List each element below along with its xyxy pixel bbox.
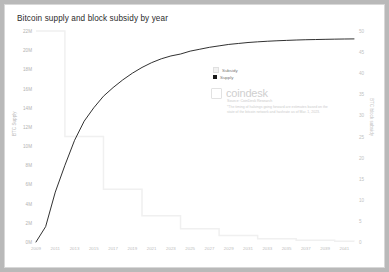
y-axis-left-tick: 10M [23, 144, 32, 149]
source-credit: Source: CoinDesk Research [227, 99, 272, 103]
y-axis-left-tick: 16M [23, 86, 32, 91]
x-axis-tick: 2023 [166, 246, 176, 251]
y-axis-right-tick: 30 [359, 113, 364, 118]
y-axis-left-tick: 2M [26, 220, 32, 225]
x-axis-tick: 2039 [320, 246, 330, 251]
y-axis-right-tick: 20 [359, 155, 364, 160]
page-title: Bitcoin supply and block subsidy by year [17, 14, 168, 23]
y-axis-left-tick: 14M [23, 105, 32, 110]
y-axis-left-tick: 0M [26, 240, 32, 245]
y-axis-left-label: BTC Supply [12, 111, 17, 136]
y-axis-right-label: BTC block subsidy [369, 98, 374, 136]
x-axis-tick: 2033 [262, 246, 272, 251]
y-axis-right-tick: 0 [359, 240, 362, 245]
x-axis-tick: 2025 [185, 246, 195, 251]
legend-swatch-icon [213, 75, 217, 79]
y-axis-left-tick: 4M [26, 201, 32, 206]
x-axis-tick: 2029 [224, 246, 234, 251]
x-axis-tick: 2019 [127, 246, 137, 251]
x-axis-tick: 2011 [51, 246, 60, 251]
y-axis-right-tick: 15 [359, 176, 364, 181]
legend-item-supply: Supply [213, 75, 238, 80]
y-axis-left-tick: 6M [26, 182, 32, 187]
coindesk-square-icon [211, 88, 222, 99]
y-axis-left-tick: 8M [26, 163, 32, 168]
brand-logo: coindesk [211, 87, 268, 99]
x-axis-tick: 2013 [70, 246, 80, 251]
x-axis-tick: 2015 [89, 246, 99, 251]
legend-label: Subsidy [222, 68, 238, 73]
y-axis-left-tick: 22M [23, 29, 32, 34]
y-axis-right-tick: 5 [359, 218, 362, 223]
y-axis-left-tick: 18M [23, 67, 32, 72]
chart-card: Bitcoin supply and block subsidy by year… [4, 4, 385, 268]
y-axis-right-tick: 45 [359, 50, 364, 55]
x-axis-tick: 2037 [301, 246, 311, 251]
y-axis-right-tick: 50 [359, 29, 364, 34]
brand-name: coindesk [226, 87, 268, 99]
x-axis-tick: 2009 [31, 246, 41, 251]
chart-legend: Subsidy Supply [213, 67, 238, 81]
y-axis-right-tick: 40 [359, 71, 364, 76]
x-axis-tick: 2021 [147, 246, 157, 251]
y-axis-right-tick: 10 [359, 197, 364, 202]
subsidy-step-line [36, 31, 354, 242]
x-axis-tick: 2017 [108, 246, 118, 251]
y-axis-left-tick: 20M [23, 48, 32, 53]
y-axis-left-tick: 12M [23, 124, 32, 129]
x-axis-tick: 2027 [205, 246, 215, 251]
legend-item-subsidy: Subsidy [213, 67, 238, 73]
x-axis-tick: 2041 [339, 246, 349, 251]
chart-footnote: *The timing of halvings going forward ar… [227, 105, 335, 116]
legend-swatch-icon [213, 67, 219, 73]
x-axis-tick: 2035 [282, 246, 292, 251]
legend-label: Supply [220, 75, 233, 80]
supply-line [36, 39, 354, 242]
y-axis-right-tick: 25 [359, 134, 364, 139]
plot-area: 0M2M4M6M8M10M12M14M16M18M20M22M 05101520… [36, 31, 354, 242]
chart-series-layer [36, 31, 354, 242]
y-axis-right-tick: 35 [359, 92, 364, 97]
x-axis-tick: 2031 [243, 246, 253, 251]
